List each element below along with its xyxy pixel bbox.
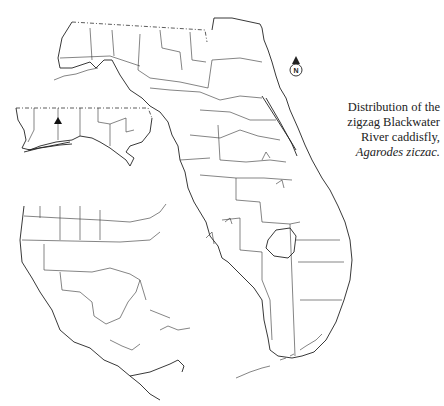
caption-line-3: River caddisfly,: [320, 130, 440, 145]
north-america-inset-map: [20, 204, 190, 400]
distribution-map: N: [0, 0, 444, 406]
record-locality-marker: [54, 117, 62, 124]
florida-main-map: [54, 18, 352, 378]
svg-text:N: N: [293, 67, 298, 74]
map-caption: Distribution of the zigzag Blackwater Ri…: [320, 100, 440, 160]
caption-line-1: Distribution of the: [320, 100, 440, 115]
panhandle-inset-map: [16, 108, 152, 166]
caption-line-2: zigzag Blackwater: [320, 115, 440, 130]
north-arrow-icon: N: [290, 56, 302, 76]
species-name: Agarodes ziczac.: [320, 145, 440, 160]
